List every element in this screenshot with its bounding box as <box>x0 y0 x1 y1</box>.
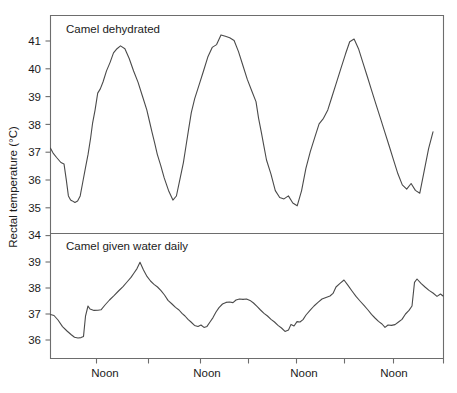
x-tick-label-noon-1: Noon <box>91 367 119 379</box>
y-tick-label-37-lower: 37 <box>28 308 41 320</box>
lower-panel-group: 39 38 37 36 Camel given water daily <box>28 240 443 346</box>
y-tick-label-36: 36 <box>28 174 41 186</box>
y-tick-label-38: 38 <box>28 119 41 131</box>
y-tick-label-35: 35 <box>28 202 41 214</box>
x-tick-label-noon-3: Noon <box>290 367 318 379</box>
camel-temperature-chart: 41 40 39 38 37 36 35 34 Camel dehydrated… <box>0 0 457 393</box>
y-tick-label-40: 40 <box>28 63 41 75</box>
lower-panel-y-ticks <box>46 262 51 340</box>
lower-panel-title: Camel given water daily <box>66 240 188 252</box>
plot-frame <box>51 16 444 359</box>
y-axis-title: Rectal temperature (°C) <box>7 126 19 248</box>
y-tick-label-38-lower: 38 <box>28 282 41 294</box>
chart-figure: 41 40 39 38 37 36 35 34 Camel dehydrated… <box>0 0 457 393</box>
upper-panel-title: Camel dehydrated <box>66 23 160 35</box>
y-tick-label-39: 39 <box>28 91 41 103</box>
upper-panel-y-ticks <box>46 41 51 236</box>
lower-panel-data-line <box>51 262 444 338</box>
upper-panel-data-line <box>51 35 434 206</box>
y-tick-label-39-lower: 39 <box>28 256 41 268</box>
upper-panel-group: 41 40 39 38 37 36 35 34 Camel dehydrated <box>28 23 433 241</box>
y-tick-label-41: 41 <box>28 35 41 47</box>
y-tick-label-36-lower: 36 <box>28 334 41 346</box>
y-tick-label-37: 37 <box>28 146 41 158</box>
x-tick-label-noon-4: Noon <box>380 367 408 379</box>
y-tick-label-34: 34 <box>28 229 41 241</box>
x-axis-ticks <box>97 359 444 364</box>
x-tick-label-noon-2: Noon <box>193 367 221 379</box>
